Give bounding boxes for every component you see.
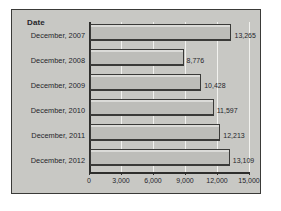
x-tick-mark (89, 172, 90, 175)
bar-row: December, 200713,265 (89, 22, 249, 47)
chart-panel: Date December, 200713,265December, 20088… (11, 9, 261, 194)
bar-row: December, 200910,428 (89, 72, 249, 97)
plot-area: December, 200713,265December, 20088,776D… (89, 22, 249, 172)
bar-row: December, 20088,776 (89, 47, 249, 72)
x-tick-mark (185, 172, 186, 175)
bar-row: December, 201112,213 (89, 122, 249, 147)
bar-row: December, 201011,597 (89, 97, 249, 122)
category-label: December, 2010 (31, 105, 85, 114)
axis-title-date: Date (27, 18, 45, 27)
category-label: December, 2012 (31, 155, 85, 164)
bar-value-label: 11,597 (217, 106, 238, 113)
gridline (249, 22, 250, 172)
x-tick-mark (249, 172, 250, 175)
bar-value-label: 13,265 (234, 31, 255, 38)
category-label: December, 2008 (31, 55, 85, 64)
x-tick-label: 3,000 (112, 177, 130, 184)
bar-row: December, 201213,109 (89, 147, 249, 172)
x-tick-label: 12,000 (206, 177, 227, 184)
chart-screenshot: Date December, 200713,265December, 20088… (0, 0, 281, 211)
bar (90, 49, 184, 66)
bar-value-label: 12,213 (223, 131, 244, 138)
x-tick-label: 6,000 (144, 177, 162, 184)
category-label: December, 2011 (31, 130, 85, 139)
category-label: December, 2009 (31, 80, 85, 89)
x-axis-line (89, 172, 249, 174)
bar (90, 24, 231, 41)
bar (90, 74, 201, 91)
x-tick-mark (217, 172, 218, 175)
bar-value-label: 8,776 (187, 56, 205, 63)
x-tick-label: 0 (87, 177, 91, 184)
bar (90, 99, 214, 116)
bar (90, 149, 230, 166)
bar (90, 124, 220, 141)
bar-value-label: 10,428 (204, 81, 225, 88)
category-label: December, 2007 (31, 30, 85, 39)
x-tick-label: 15,000 (238, 177, 259, 184)
x-tick-mark (153, 172, 154, 175)
x-tick-mark (121, 172, 122, 175)
bar-value-label: 13,109 (233, 156, 254, 163)
x-tick-label: 9,000 (176, 177, 194, 184)
